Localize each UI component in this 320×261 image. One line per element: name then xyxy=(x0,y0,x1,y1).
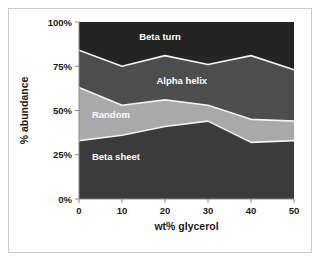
y-tick-label: 75% xyxy=(53,61,73,72)
x-tick-label: 0 xyxy=(76,205,81,216)
series-label-alpha-helix: Alpha helix xyxy=(156,75,207,86)
y-tick-label: 25% xyxy=(53,149,73,160)
x-tick-label: 50 xyxy=(289,205,300,216)
series-label-beta-sheet: Beta sheet xyxy=(92,151,141,162)
y-axis-title: % abundance xyxy=(18,77,30,145)
y-tick-label: 0% xyxy=(58,194,72,205)
chart-figure: 0%25%50%75%100%01020304050wt% glycerol% … xyxy=(0,0,320,261)
series-label-random: Random xyxy=(92,109,130,120)
x-tick-label: 10 xyxy=(117,205,128,216)
y-tick-label: 50% xyxy=(53,105,73,116)
x-tick-label: 40 xyxy=(246,205,257,216)
x-axis-title: wt% glycerol xyxy=(153,220,218,232)
y-tick-label: 100% xyxy=(48,17,73,28)
x-tick-label: 20 xyxy=(160,205,171,216)
stacked-area-chart: 0%25%50%75%100%01020304050wt% glycerol% … xyxy=(0,0,320,261)
series-label-beta-turn: Beta turn xyxy=(139,31,181,42)
x-tick-label: 30 xyxy=(203,205,214,216)
